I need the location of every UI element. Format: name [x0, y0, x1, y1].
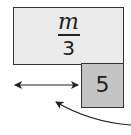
arrows-layer	[0, 0, 131, 135]
curved-arrow-icon	[56, 102, 131, 125]
